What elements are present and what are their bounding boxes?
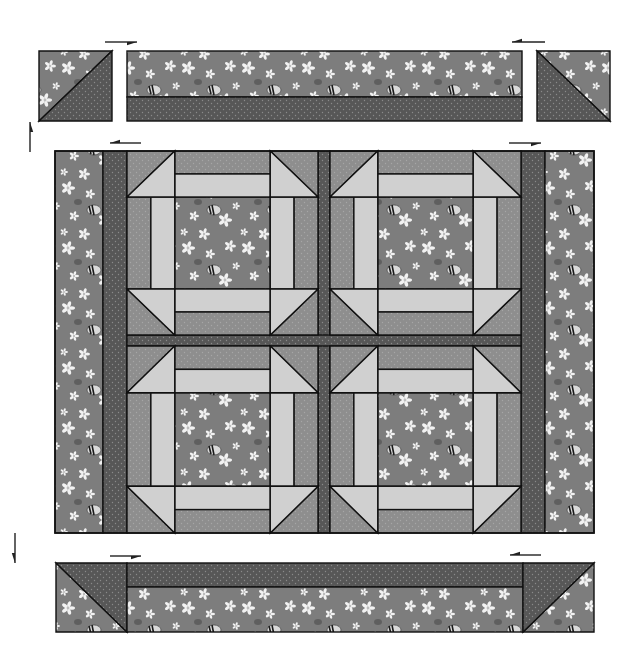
quilt-assembly-diagram (0, 0, 634, 661)
top-strip-dark (127, 97, 522, 121)
bottom-strip-print (127, 587, 523, 632)
block-bottom-right (330, 346, 521, 533)
block-top-left (127, 151, 318, 335)
block-bottom-left (127, 346, 318, 533)
rail-top-inner (378, 369, 474, 392)
rail-right-inner (270, 197, 294, 289)
rail-bottom-outer (175, 510, 271, 533)
rail-right-outer (497, 197, 521, 289)
rail-left-inner (151, 197, 175, 289)
arrow-bottom-strip-right-icon (110, 556, 141, 559)
arrow-bottom-row-down-icon (12, 533, 15, 563)
rail-left-inner (354, 393, 378, 487)
rail-top-outer (175, 346, 271, 369)
block-center-square (175, 393, 271, 487)
arrow-head (131, 556, 141, 559)
arrow-head (110, 140, 120, 143)
rail-left-outer (127, 197, 151, 289)
arrow-head (12, 553, 15, 563)
rail-right-inner (473, 197, 497, 289)
rail-right-outer (294, 393, 318, 487)
block-top-right (330, 151, 521, 335)
bottom-row-border-unit (56, 563, 594, 632)
rail-top-outer (378, 151, 474, 174)
top-row-border-unit (39, 51, 610, 121)
arrow-main-right-icon (509, 143, 541, 146)
arrow-head (531, 143, 541, 146)
right-border (545, 151, 594, 533)
arrow-top-strip-right-icon (105, 42, 137, 45)
quilt-center-assembly (55, 151, 594, 533)
rail-left-outer (127, 393, 151, 487)
arrow-bottom-strip-left-icon (510, 552, 541, 555)
top-strip-print (127, 51, 522, 97)
rail-top-outer (175, 151, 271, 174)
arrow-head (512, 39, 522, 42)
block-center-square (378, 197, 474, 289)
rail-bottom-outer (175, 312, 271, 335)
arrow-head (30, 122, 33, 132)
rail-top-inner (175, 174, 271, 197)
block-center-square (378, 393, 474, 487)
rail-left-inner (354, 197, 378, 289)
arrow-head (510, 552, 520, 555)
block-center-square (175, 197, 271, 289)
arrow-head (127, 42, 137, 45)
rail-right-outer (294, 197, 318, 289)
rail-bottom-inner (378, 289, 474, 312)
rail-bottom-inner (378, 486, 474, 509)
left-sashing (103, 151, 127, 533)
arrow-top-strip-left-icon (512, 39, 545, 42)
rail-top-inner (378, 174, 474, 197)
rail-top-outer (378, 346, 474, 369)
rail-right-outer (497, 393, 521, 487)
rail-right-inner (473, 393, 497, 487)
rail-bottom-inner (175, 289, 271, 312)
bottom-strip-dark (127, 563, 523, 587)
rail-bottom-inner (175, 486, 271, 509)
rail-top-inner (175, 369, 271, 392)
left-border (55, 151, 103, 533)
rail-left-outer (330, 393, 354, 487)
quilt-diagram-canvas (0, 0, 634, 661)
arrow-top-row-up-icon (30, 122, 33, 152)
rail-bottom-outer (378, 312, 474, 335)
rail-left-inner (151, 393, 175, 487)
rail-bottom-outer (378, 510, 474, 533)
rail-right-inner (270, 393, 294, 487)
rail-left-outer (330, 197, 354, 289)
arrow-main-left-icon (110, 140, 141, 143)
right-sashing (521, 151, 545, 533)
center-horizontal-sashing (127, 335, 521, 346)
